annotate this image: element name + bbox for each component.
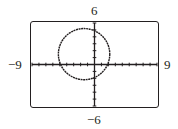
plot-area: [0, 0, 178, 129]
circle-curve: [58, 29, 109, 80]
